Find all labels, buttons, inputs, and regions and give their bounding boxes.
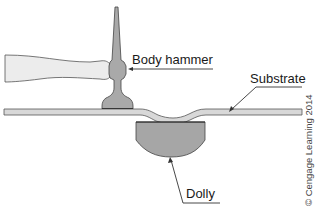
dolly-leader-arrow — [168, 157, 173, 163]
dolly — [136, 122, 205, 157]
substrate-leader-line — [232, 87, 302, 109]
label-dolly: Dolly — [186, 187, 215, 200]
hammer-head — [102, 7, 133, 109]
diagram-canvas — [0, 0, 318, 208]
label-substrate: Substrate — [250, 72, 306, 85]
hammer-leader-arrow — [128, 67, 133, 71]
hammer-handle — [5, 55, 110, 82]
label-body-hammer: Body hammer — [132, 53, 213, 66]
copyright-notice: © Cengage Learning 2014 — [304, 94, 314, 206]
